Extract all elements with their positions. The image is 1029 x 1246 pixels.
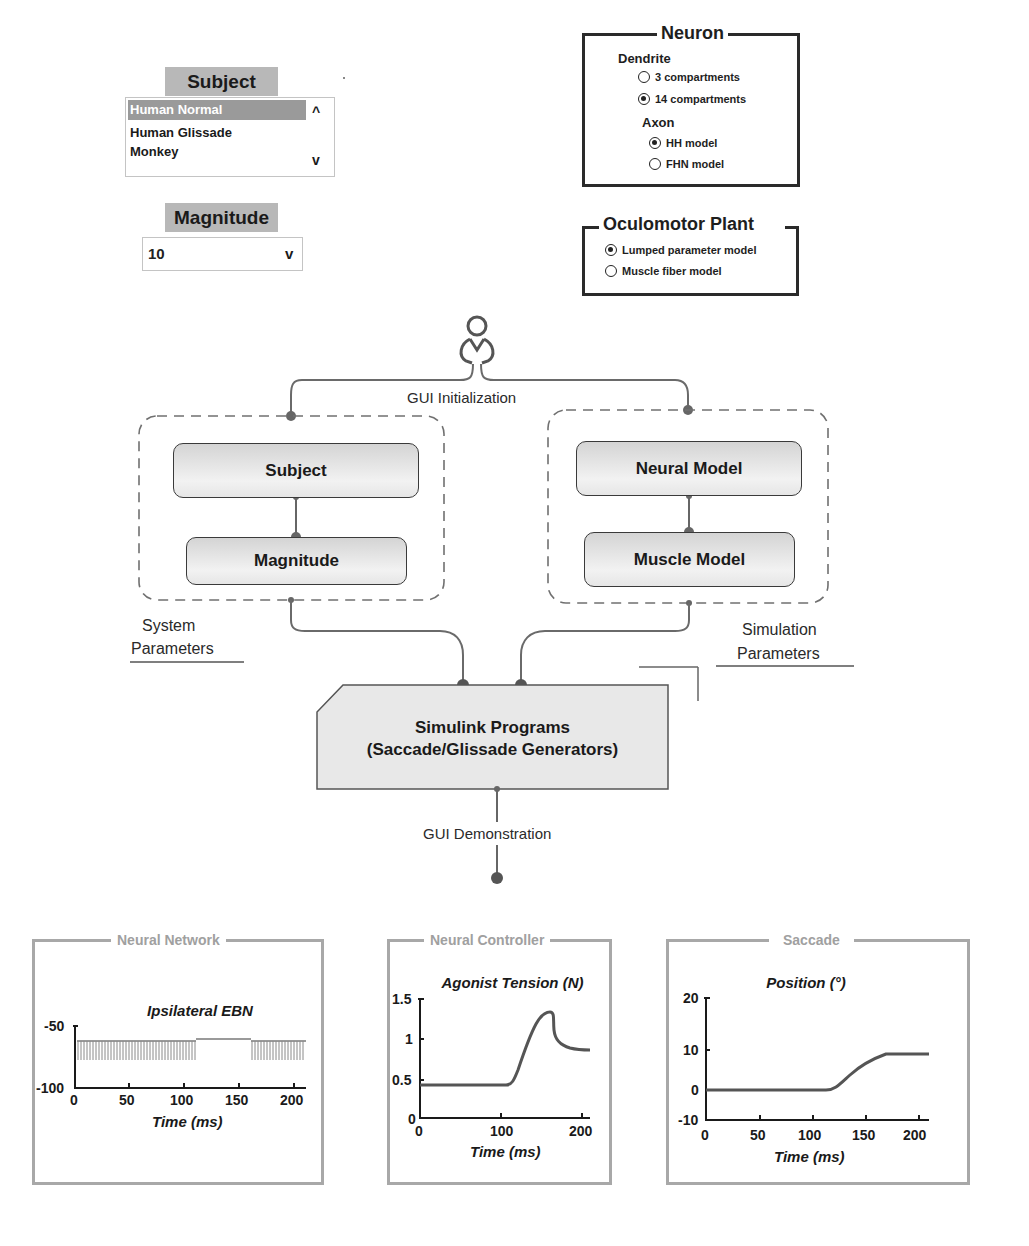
y-tick: 0 <box>691 1082 699 1098</box>
y-tick: -10 <box>678 1112 698 1128</box>
y-tick: 20 <box>683 990 699 1006</box>
y-tick: 10 <box>683 1042 699 1058</box>
x-axis-title: Time (ms) <box>774 1148 845 1165</box>
x-tick: 100 <box>798 1127 821 1143</box>
saccade-plot <box>0 0 1029 1246</box>
x-tick: 50 <box>750 1127 766 1143</box>
x-tick: 0 <box>701 1127 709 1143</box>
x-tick: 150 <box>852 1127 875 1143</box>
x-tick: 200 <box>903 1127 926 1143</box>
